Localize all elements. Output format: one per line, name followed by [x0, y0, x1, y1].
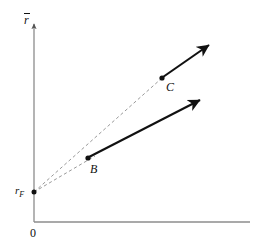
point-label-rf-subscript: F	[19, 190, 24, 199]
y-axis-label: r	[24, 13, 29, 26]
dashed-ray-rf-to-b	[34, 156, 95, 192]
vector-diagram-figure: r 0 rF B C	[0, 0, 257, 247]
origin-label: 0	[30, 227, 36, 239]
point-label-c: C	[166, 81, 174, 93]
point-label-rf: rF	[15, 185, 24, 199]
point-marker-rf	[32, 190, 37, 195]
point-marker-c	[159, 75, 164, 80]
point-marker-b	[85, 155, 90, 160]
vector-from-c	[163, 45, 209, 77]
dashed-ray-rf-to-c	[34, 78, 162, 192]
figure-canvas	[0, 0, 257, 247]
y-axis-label-text: r	[24, 13, 29, 26]
point-label-b: B	[90, 163, 97, 175]
